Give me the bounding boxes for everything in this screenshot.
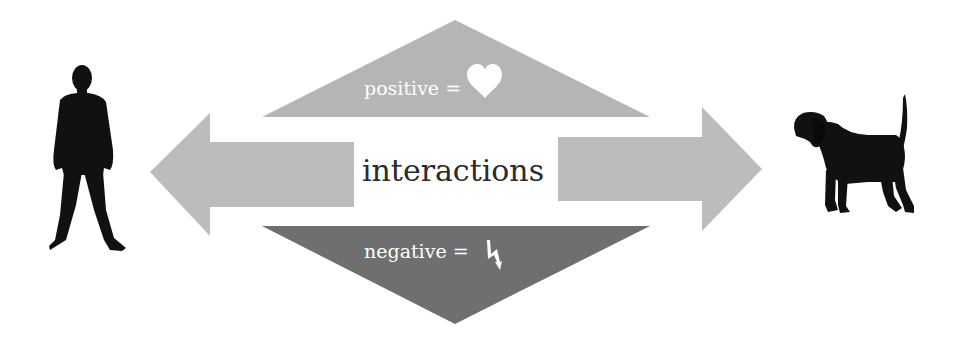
person-silhouette-icon: [49, 65, 126, 251]
dog-silhouette-icon: [794, 94, 914, 213]
right-arrow: [558, 107, 762, 231]
negative-label: negative =: [364, 240, 469, 262]
interactions-diagram: positive = negative = interactions: [0, 0, 957, 342]
left-arrow: [150, 113, 354, 236]
negative-triangle: negative =: [262, 226, 650, 324]
positive-triangle: positive =: [262, 20, 650, 117]
interactions-label: interactions: [362, 153, 544, 188]
positive-label: positive =: [364, 77, 461, 99]
